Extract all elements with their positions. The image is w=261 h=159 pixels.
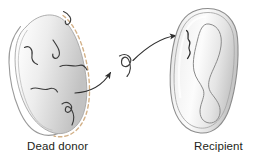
transfer-arrows [75, 36, 176, 94]
recipient-cell [170, 9, 238, 134]
transformation-figure: Dead donor Recipient [0, 0, 261, 159]
released-dna-fragment-path [120, 55, 131, 77]
recipient-label: Recipient [194, 140, 243, 152]
dead-donor-cell [9, 12, 90, 137]
figure-canvas [0, 0, 261, 159]
free-dna-fragment [120, 55, 131, 77]
dead-donor-label: Dead donor [27, 140, 88, 152]
arrow-uptake-dna [133, 36, 176, 61]
recipient-outer-membrane [170, 9, 238, 134]
